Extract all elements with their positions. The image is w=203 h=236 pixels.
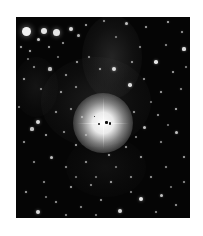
star xyxy=(60,91,63,94)
star xyxy=(185,66,187,68)
star xyxy=(45,134,48,137)
star xyxy=(167,124,169,126)
nebula-cloud xyxy=(16,57,58,117)
star xyxy=(95,214,97,216)
star xyxy=(95,176,97,178)
nebula-cloud xyxy=(82,17,142,99)
star xyxy=(33,66,35,68)
star xyxy=(165,44,167,46)
star xyxy=(55,201,58,204)
star xyxy=(53,29,60,36)
star xyxy=(150,101,152,103)
star xyxy=(155,211,157,213)
saturated-core-artifact xyxy=(94,116,95,117)
star xyxy=(167,21,170,24)
star xyxy=(65,214,67,216)
star xyxy=(135,136,137,138)
star xyxy=(36,120,40,124)
star xyxy=(23,141,25,143)
star xyxy=(183,156,186,159)
saturated-core-artifact xyxy=(109,122,111,125)
star xyxy=(27,58,29,60)
star xyxy=(160,141,162,143)
star xyxy=(69,27,73,31)
star xyxy=(140,156,143,159)
star xyxy=(165,166,167,168)
star xyxy=(139,197,143,201)
star xyxy=(90,184,92,186)
star xyxy=(23,78,26,81)
star xyxy=(37,38,40,41)
star-field-image xyxy=(16,17,190,218)
star xyxy=(85,134,87,136)
star xyxy=(128,83,132,87)
star xyxy=(22,27,31,36)
star xyxy=(139,46,141,48)
star xyxy=(65,74,67,76)
saturated-core-artifact xyxy=(105,121,108,124)
star xyxy=(108,154,111,157)
star xyxy=(160,194,163,197)
star xyxy=(40,88,42,90)
star xyxy=(145,26,148,29)
star xyxy=(77,34,80,37)
star xyxy=(133,111,135,113)
star xyxy=(160,91,163,94)
star xyxy=(43,181,45,183)
star xyxy=(33,161,35,163)
star xyxy=(55,111,57,113)
star xyxy=(25,191,28,194)
star xyxy=(75,176,77,178)
star-halo xyxy=(73,93,133,153)
star xyxy=(57,56,59,58)
star xyxy=(63,131,65,133)
star xyxy=(70,108,72,110)
star xyxy=(170,186,172,188)
star xyxy=(115,166,117,168)
star xyxy=(76,61,79,64)
star xyxy=(50,156,53,159)
star xyxy=(115,36,117,38)
star xyxy=(30,127,33,130)
star xyxy=(100,199,103,202)
star xyxy=(41,28,47,34)
star xyxy=(48,46,50,48)
nebula-cloud xyxy=(66,137,146,197)
star xyxy=(18,106,20,108)
star xyxy=(85,24,88,27)
star xyxy=(48,67,51,70)
star xyxy=(180,88,182,90)
star xyxy=(99,68,102,71)
star xyxy=(75,86,77,88)
star xyxy=(183,181,185,183)
star xyxy=(20,46,22,48)
star xyxy=(81,116,84,119)
star xyxy=(181,31,183,33)
star xyxy=(175,108,178,111)
star xyxy=(85,161,88,164)
star xyxy=(125,146,127,148)
star xyxy=(143,78,145,80)
star xyxy=(157,114,159,116)
star xyxy=(70,186,73,189)
star xyxy=(125,22,128,25)
star xyxy=(131,61,133,63)
star xyxy=(36,210,40,214)
star xyxy=(143,126,146,129)
diffraction-spike-vertical xyxy=(103,97,104,149)
star xyxy=(130,176,132,178)
star xyxy=(118,209,122,213)
star xyxy=(29,50,32,53)
star xyxy=(80,206,82,208)
nebula-cloud xyxy=(41,57,151,147)
star xyxy=(150,176,153,179)
star xyxy=(103,20,105,22)
star xyxy=(65,166,67,168)
star xyxy=(182,47,185,50)
diffraction-spike-horizontal xyxy=(77,123,129,124)
star xyxy=(112,67,116,71)
star xyxy=(172,71,175,74)
image-canvas xyxy=(0,0,203,236)
star xyxy=(75,144,78,147)
saturated-core-artifact xyxy=(98,123,100,125)
